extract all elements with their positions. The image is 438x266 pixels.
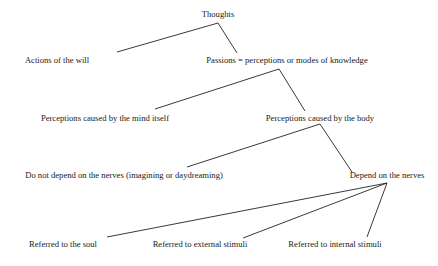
node-passions: Passions = perceptions or modes of knowl… <box>206 56 367 65</box>
thoughts-tree-diagram: Thoughts Actions of the will Passions = … <box>0 0 438 266</box>
node-referred-soul: Referred to the soul <box>29 240 97 249</box>
node-depend-nerves: Depend on the nerves <box>350 171 425 180</box>
node-actions-of-the-will: Actions of the will <box>25 56 89 65</box>
edge-passions-to-mind <box>155 69 279 109</box>
edge-thoughts-to-actions <box>117 23 218 52</box>
edge-nerves-to-soul <box>107 183 387 237</box>
node-perceptions-mind: Perceptions caused by the mind itself <box>41 114 169 123</box>
node-referred-external: Referred to external stimuli <box>153 240 248 249</box>
edge-nerves-to-external <box>243 183 387 238</box>
edge-body-to-no_nerves <box>187 124 320 167</box>
node-not-depend-nerves: Do not depend on the nerves (imagining o… <box>25 171 223 180</box>
node-thoughts: Thoughts <box>202 10 234 19</box>
edge-body-to-nerves <box>320 124 352 172</box>
node-perceptions-body: Perceptions caused by the body <box>266 114 374 123</box>
edge-passions-to-body <box>279 69 305 111</box>
edge-thoughts-to-passions <box>218 23 237 53</box>
connector-lines <box>0 0 438 266</box>
edge-nerves-to-internal <box>367 183 387 237</box>
node-referred-internal: Referred to internal stimuli <box>288 240 381 249</box>
